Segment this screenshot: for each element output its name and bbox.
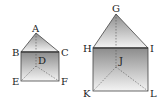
label-e: E	[12, 76, 19, 87]
prism-2: G H I J K L	[83, 3, 157, 99]
label-d: D	[38, 55, 46, 66]
prism-2-roof	[93, 14, 148, 48]
label-i: I	[150, 43, 154, 54]
label-b: B	[12, 47, 19, 58]
label-f: F	[61, 76, 68, 87]
label-a: A	[31, 23, 40, 34]
prism-1: A B C D E F	[12, 23, 69, 87]
label-g: G	[112, 3, 120, 14]
prism-diagram: A B C D E F G H I J K L	[0, 0, 160, 102]
label-l: L	[150, 88, 157, 99]
label-c: C	[61, 47, 69, 58]
prism-1-roof	[21, 33, 59, 52]
label-h: H	[83, 43, 92, 54]
label-j: J	[118, 55, 123, 66]
label-k: K	[83, 88, 91, 99]
